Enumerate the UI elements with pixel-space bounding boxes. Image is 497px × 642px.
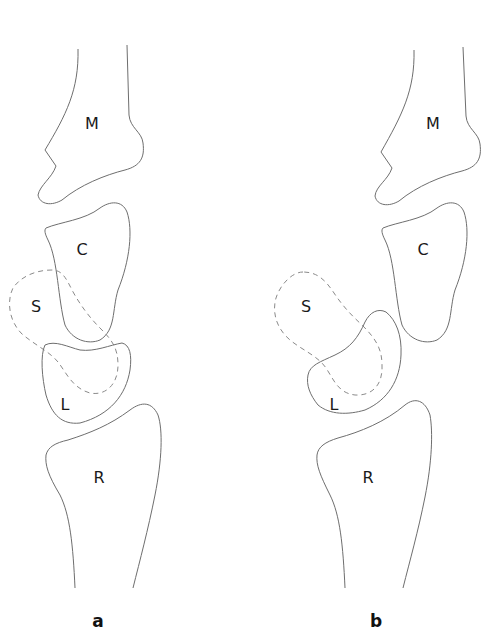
panel-a-label-s: S (31, 297, 41, 316)
panel-a-label-m: M (85, 114, 99, 133)
panel-b-lunate-outline (307, 310, 401, 413)
panel-a-lunate-outline (42, 343, 131, 423)
panel-a-capitate-outline (45, 203, 130, 342)
wrist-diagram: M C S L R a M C S L R b (0, 0, 497, 642)
panel-a-caption: a (92, 611, 103, 631)
panel-a-scaphoid-outline (10, 270, 118, 393)
panel-b-label-c: C (417, 240, 428, 259)
panel-b-label-l: L (330, 395, 339, 414)
panel-b-capitate-outline (382, 203, 467, 342)
panel-a-label-c: C (76, 240, 87, 259)
panel-a-label-l: L (61, 395, 70, 414)
panel-b-label-m: M (426, 114, 440, 133)
panel-a: M C S L R a (10, 45, 162, 631)
panel-b-scaphoid-outline (275, 272, 383, 395)
panel-b-caption: b (370, 611, 382, 631)
panel-a-radius-outline (46, 404, 161, 588)
panel-b-label-r: R (362, 468, 373, 487)
panel-b-label-s: S (301, 297, 311, 316)
panel-b-radius-outline (317, 401, 432, 588)
panel-a-label-r: R (93, 468, 104, 487)
panel-b: M C S L R b (275, 47, 481, 631)
